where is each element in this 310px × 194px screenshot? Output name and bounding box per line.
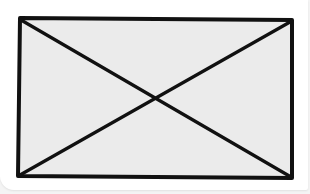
crossed-box-icon (0, 0, 310, 194)
